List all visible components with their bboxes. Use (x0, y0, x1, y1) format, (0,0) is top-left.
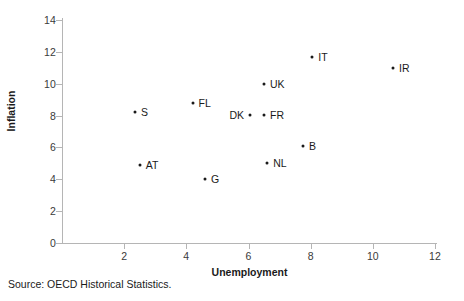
data-point (134, 111, 137, 114)
y-axis-title: Inflation (5, 56, 17, 166)
x-tick-label: 2 (104, 250, 144, 262)
x-tick-mark (124, 244, 125, 249)
x-tick-label: 12 (415, 250, 455, 262)
data-point-label: S (141, 106, 148, 118)
x-tick-label: 10 (353, 250, 393, 262)
x-tick-mark (249, 244, 250, 249)
data-point (191, 101, 194, 104)
x-tick-label: 8 (291, 250, 331, 262)
source-note: Source: OECD Historical Statistics. (8, 278, 171, 290)
data-point-label: G (211, 173, 219, 185)
x-axis-line (62, 243, 437, 244)
data-point-label: DK (229, 109, 244, 121)
x-tick-label: 4 (166, 250, 206, 262)
data-point (249, 113, 252, 116)
data-point (263, 113, 266, 116)
data-point (301, 144, 304, 147)
data-point-label: FR (270, 109, 284, 121)
y-tick-label: 4 (8, 173, 56, 185)
data-point-label: NL (273, 157, 286, 169)
x-axis-title: Unemployment (62, 266, 437, 278)
data-point (266, 162, 269, 165)
data-point (263, 82, 266, 85)
data-point-label: UK (270, 78, 285, 90)
scatter-chart: 02468101214 24681012 Inflation Unemploym… (0, 0, 464, 301)
x-tick-mark (435, 244, 436, 249)
data-point (392, 66, 395, 69)
data-point-label: IR (399, 62, 410, 74)
data-point (138, 163, 141, 166)
x-tick-label: 6 (229, 250, 269, 262)
data-point (203, 178, 206, 181)
x-tick-mark (311, 244, 312, 249)
y-tick-label: 14 (8, 14, 56, 26)
data-point-label: AT (146, 159, 159, 171)
x-tick-mark (373, 244, 374, 249)
y-tick-label: 0 (8, 237, 56, 249)
data-point-label: FL (199, 97, 211, 109)
x-tick-mark (186, 244, 187, 249)
y-tick-mark (56, 243, 62, 244)
data-point (311, 55, 314, 58)
data-point-label: IT (318, 51, 327, 63)
data-point-label: B (309, 140, 316, 152)
y-tick-label: 2 (8, 205, 56, 217)
plot-area: SATFLGDKFRUKNLBITIR (62, 20, 435, 243)
